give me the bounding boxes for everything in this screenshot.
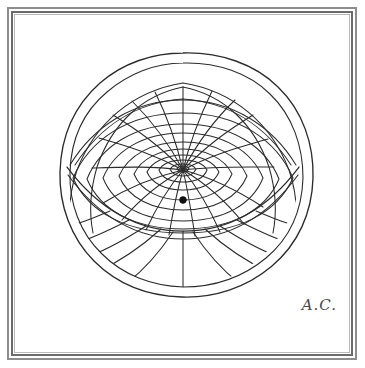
sphere-svg	[15, 15, 350, 353]
meridian-3	[183, 100, 235, 170]
southern-fan-r3	[220, 226, 287, 260]
southern-fan-r5	[256, 211, 305, 228]
sphere-drawing	[15, 15, 350, 353]
meridian-outer-left-2	[70, 83, 183, 229]
plotted-body-dot	[180, 197, 187, 204]
pole-knot	[181, 168, 185, 172]
meridian-5	[183, 139, 268, 170]
ink-group	[60, 53, 313, 300]
southern-fan-r1	[193, 232, 239, 283]
artist-signature: A.C.	[302, 296, 337, 314]
coordinate-grid	[61, 83, 305, 300]
upper-arc-right	[183, 99, 291, 165]
meridian-13	[122, 170, 183, 220]
meridian-outer-right-1	[183, 87, 275, 233]
meridian-outer-left-1	[91, 87, 183, 233]
artwork-plate: A.C.	[0, 0, 365, 368]
